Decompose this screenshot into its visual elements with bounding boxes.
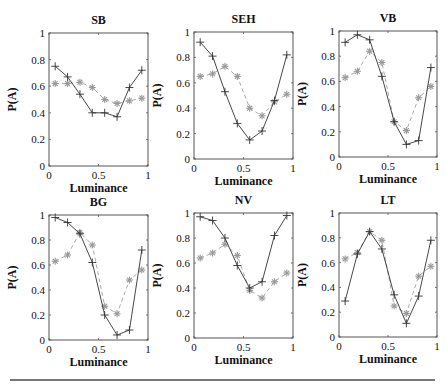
y-tick-label: 0.2 [31, 309, 45, 321]
plus-marker-icon [76, 90, 84, 98]
series-dashed-line [345, 51, 431, 130]
panel-nv: NV00.20.40.60.8100.51LuminanceP(A) [150, 193, 296, 367]
x-axis-label: Luminance [69, 355, 128, 369]
plus-marker-icon [209, 217, 217, 225]
x-tick-label: 0.5 [92, 343, 106, 355]
axes-box [194, 213, 293, 338]
series-solid-line [55, 66, 142, 117]
axes-box [194, 32, 293, 159]
x-tick-label: 1 [434, 160, 440, 172]
plus-marker-icon [101, 311, 109, 319]
y-tick-label: 1 [185, 26, 191, 38]
y-axis-label: P(A) [5, 266, 19, 290]
y-tick-label: 0 [40, 160, 46, 172]
y-tick-label: 0.8 [31, 54, 45, 66]
plus-marker-icon [415, 137, 423, 145]
plus-marker-icon [138, 246, 146, 254]
series-dashed-line [55, 233, 142, 314]
x-tick-label: 1 [290, 162, 296, 174]
star-marker-icon [391, 303, 398, 310]
plus-marker-icon [390, 118, 398, 126]
y-axis-label: P(A) [150, 264, 164, 288]
x-tick-label: 0.5 [237, 341, 251, 353]
x-tick-label: 0 [336, 160, 342, 172]
plus-marker-icon [415, 292, 423, 300]
plus-marker-icon [366, 228, 374, 236]
plus-marker-icon [221, 234, 229, 242]
plus-marker-icon [341, 38, 349, 46]
y-tick-label: 0.4 [176, 102, 190, 114]
plus-marker-icon [125, 326, 133, 334]
plus-marker-icon [258, 127, 266, 135]
star-marker-icon [64, 252, 71, 259]
star-marker-icon [89, 242, 96, 249]
star-marker-icon [209, 250, 216, 257]
star-marker-icon [378, 237, 385, 244]
star-marker-icon [209, 70, 216, 77]
plus-marker-icon [353, 250, 361, 258]
y-tick-label: 0.2 [321, 126, 335, 138]
star-marker-icon [138, 95, 145, 102]
y-tick-label: 0.4 [31, 284, 45, 296]
plus-marker-icon [427, 236, 435, 244]
plus-marker-icon [221, 88, 229, 96]
plus-marker-icon [270, 97, 278, 105]
plus-marker-icon [196, 213, 204, 221]
y-axis-label: P(A) [150, 84, 164, 108]
y-tick-label: 0 [330, 331, 336, 343]
y-tick-label: 0.6 [321, 75, 335, 87]
x-axis-label: Luminance [214, 353, 273, 367]
star-marker-icon [126, 97, 133, 104]
axes-box [339, 213, 437, 337]
star-marker-icon [52, 258, 59, 265]
x-tick-label: 1 [145, 169, 151, 181]
y-tick-label: 0.8 [176, 232, 190, 244]
y-tick-label: 0.4 [321, 281, 335, 293]
y-tick-label: 0.6 [31, 259, 45, 271]
plus-marker-icon [125, 84, 133, 92]
x-tick-label: 0 [191, 162, 197, 174]
star-marker-icon [259, 295, 266, 302]
axes-box [49, 215, 148, 340]
x-tick-label: 0 [336, 340, 342, 352]
y-tick-label: 1 [330, 25, 336, 37]
star-marker-icon [283, 91, 290, 98]
y-tick-label: 0 [185, 332, 191, 344]
star-marker-icon [234, 73, 241, 80]
plus-marker-icon [258, 278, 266, 286]
star-marker-icon [403, 310, 410, 317]
plus-marker-icon [138, 66, 146, 74]
plus-marker-icon [246, 136, 254, 144]
y-axis-label: P(A) [295, 263, 309, 287]
y-tick-label: 0.2 [321, 306, 335, 318]
y-tick-label: 0.8 [31, 234, 45, 246]
star-marker-icon [366, 48, 373, 55]
y-tick-label: 1 [185, 207, 191, 219]
star-marker-icon [126, 277, 133, 284]
star-marker-icon [354, 68, 361, 75]
y-tick-label: 0 [330, 151, 336, 163]
axes-box [49, 33, 148, 166]
series-solid-line [55, 218, 142, 336]
star-marker-icon [197, 73, 204, 80]
y-axis-label: P(A) [5, 88, 19, 112]
y-tick-label: 1 [330, 207, 336, 219]
x-axis-label: Luminance [69, 181, 128, 195]
y-tick-label: 0.2 [31, 133, 45, 145]
panel-vb: VB00.20.40.60.8100.51LuminanceP(A) [295, 11, 440, 186]
y-tick-label: 0 [185, 153, 191, 165]
panel-title: VB [380, 11, 397, 25]
plus-marker-icon [101, 109, 109, 117]
y-tick-label: 0.2 [176, 128, 190, 140]
x-tick-label: 0.5 [381, 160, 395, 172]
star-marker-icon [197, 255, 204, 262]
y-tick-label: 1 [40, 27, 46, 39]
panel-sb: SB00.20.40.60.8100.51LuminanceP(A) [5, 13, 151, 195]
star-marker-icon [234, 252, 241, 259]
y-axis-label: P(A) [295, 82, 309, 106]
plus-marker-icon [353, 31, 361, 39]
panel-title: SEH [231, 12, 256, 26]
bottom-rule [10, 379, 435, 381]
x-tick-label: 0 [46, 343, 52, 355]
plus-marker-icon [283, 51, 291, 59]
